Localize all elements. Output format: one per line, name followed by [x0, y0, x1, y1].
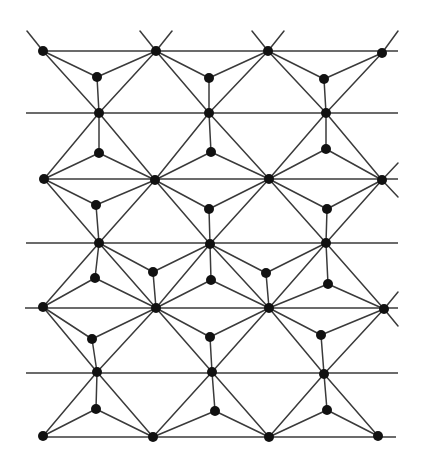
edge-A3-kAB3: [268, 51, 324, 79]
edge-C4-kCD3: [327, 180, 382, 209]
edge-kDE3-D3: [326, 243, 328, 284]
node-kFG3: [322, 405, 332, 415]
edge-A4-B3: [326, 53, 382, 113]
node-A2: [151, 46, 161, 56]
edge-C3-kCD3: [269, 179, 327, 209]
edge-E2-F1: [97, 308, 156, 372]
edge-D1-E1: [43, 243, 99, 307]
edge-E4-F3: [324, 309, 384, 374]
edge-C2-kBC1: [99, 153, 155, 180]
edge-kFG1-F1: [96, 372, 97, 409]
edge-B2-C3: [209, 113, 269, 179]
edge-C3-kBC2: [211, 152, 269, 179]
edge-kBC2-B2: [209, 113, 211, 152]
edge-E4-kDE3: [328, 284, 384, 309]
edge-A1-B1: [43, 51, 99, 113]
node-kEF2: [205, 332, 215, 342]
node-kAB2: [204, 73, 214, 83]
edge-C3-D3: [269, 179, 326, 243]
node-G1: [38, 431, 48, 441]
edge-kFG2-F2: [212, 372, 215, 411]
edge-F1-G2: [97, 372, 153, 437]
node-kBC2: [206, 147, 216, 157]
node-D2: [205, 239, 215, 249]
edge-F3-G4: [324, 374, 378, 436]
node-kDE3: [323, 279, 333, 289]
edge-kDEx1-E2: [153, 272, 156, 308]
edge-kCD2-D2: [209, 209, 210, 244]
edge-G3-kFG2: [215, 411, 269, 437]
node-E1: [38, 302, 48, 312]
edge-G2-kFG1: [96, 409, 153, 437]
edge-C1-kCD1: [44, 179, 96, 205]
edge-D2-E3: [210, 244, 269, 308]
edge-E2-kDE1: [95, 278, 156, 308]
edge-G3-kFG3: [269, 410, 327, 437]
edge-D3-E3: [269, 243, 326, 308]
edge-F1-G1: [43, 372, 97, 436]
node-D3: [321, 238, 331, 248]
edge-A2-B1: [99, 51, 156, 113]
edge-kEF3-F3: [321, 335, 324, 374]
node-kFG1: [91, 404, 101, 414]
edge-F2-G2: [153, 372, 212, 437]
edge-C3-kBC3: [269, 149, 326, 179]
node-F1: [92, 367, 102, 377]
edge-C4-D3: [326, 180, 382, 243]
lattice-diagram: [0, 0, 427, 465]
node-kBC1: [94, 148, 104, 158]
node-G2: [148, 432, 158, 442]
node-kCD2: [204, 204, 214, 214]
edge-E3-F3: [269, 308, 324, 374]
edge-E2-kEF2: [156, 308, 210, 337]
edge-B1-C2: [99, 113, 155, 180]
edge-C2-kCD1: [96, 180, 155, 205]
edge-G4-kFG3: [327, 410, 378, 436]
edge-E3-F2: [212, 308, 269, 372]
edge-C4-kBC3: [326, 149, 382, 180]
node-kEF3: [316, 330, 326, 340]
node-kFG2: [210, 406, 220, 416]
edge-E3-kDE2: [211, 280, 269, 308]
node-C1: [39, 174, 49, 184]
node-B1: [94, 108, 104, 118]
edge-E1-kDE1: [43, 278, 95, 307]
edge-D2-kDEx1: [153, 244, 210, 272]
edge-F3-G3: [269, 374, 324, 437]
node-kDE1: [90, 273, 100, 283]
edge-B3-C4: [326, 113, 382, 180]
edge-D1-E2: [99, 243, 156, 308]
edge-A4-kAB3: [324, 53, 382, 79]
node-G4: [373, 431, 383, 441]
edge-A1-kAB1: [43, 51, 97, 77]
edge-E2-F2: [156, 308, 212, 372]
edge-A2-B2: [156, 51, 209, 113]
node-A4: [377, 48, 387, 58]
edge-A2-kAB2: [156, 51, 209, 78]
edge-C1-D1: [44, 179, 99, 243]
node-G3: [264, 432, 274, 442]
edge-kCD3-D3: [326, 209, 327, 243]
node-A1: [38, 46, 48, 56]
node-F3: [319, 369, 329, 379]
edge-E3-kDE3: [269, 284, 328, 308]
edge-kDEx2-E3: [266, 273, 269, 308]
edge-E3-kEF2: [210, 308, 269, 337]
node-E4: [379, 304, 389, 314]
node-C2: [150, 175, 160, 185]
edge-kDE2-D2: [210, 244, 211, 280]
edge-D3-kDEx2: [266, 243, 326, 273]
edge-C3-kCD2: [209, 179, 269, 209]
edge-kEF2-F2: [210, 337, 212, 372]
edge-B2-C2: [155, 113, 209, 180]
edge-F2-G3: [212, 372, 269, 437]
node-kCD1: [91, 200, 101, 210]
edge-E2-kEF1: [92, 308, 156, 339]
edge-E4-kEF3: [321, 309, 384, 335]
edge-G2-kFG2: [153, 411, 215, 437]
edge-G1-kFG1: [43, 409, 96, 436]
edge-A3-B2: [209, 51, 268, 113]
edge-B1-C1: [44, 113, 99, 179]
edge-kFG3-F3: [324, 374, 327, 410]
node-C4: [377, 175, 387, 185]
